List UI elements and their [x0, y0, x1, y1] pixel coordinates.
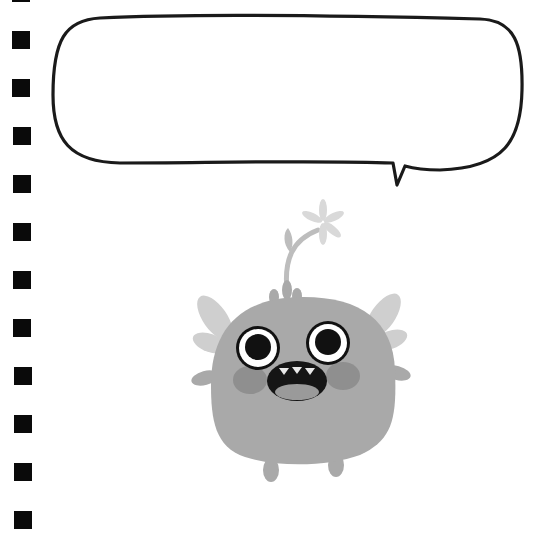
left-eye [236, 326, 280, 370]
right-eye [306, 321, 350, 365]
antenna-leaf [284, 228, 292, 252]
monster-illustration [0, 0, 544, 540]
monster-mouth [267, 361, 327, 401]
left-cheek [233, 366, 267, 394]
right-cheek [326, 362, 360, 390]
